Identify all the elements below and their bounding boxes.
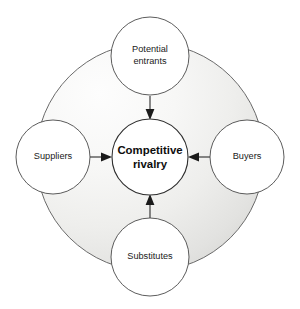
competitive-rivalry-label-line1: Competitive xyxy=(117,144,182,156)
force-node-competitive-rivalry[interactable]: Competitive rivalry xyxy=(112,119,188,195)
force-node-substitutes[interactable]: Substitutes xyxy=(111,218,189,296)
competitive-rivalry-circle[interactable] xyxy=(112,119,188,195)
competitive-rivalry-label-line2: rivalry xyxy=(133,158,168,170)
diagram-canvas: Potential entrants Suppliers Buyers Subs… xyxy=(0,0,300,309)
force-node-potential-entrants[interactable]: Potential entrants xyxy=(111,17,189,95)
five-forces-diagram: Potential entrants Suppliers Buyers Subs… xyxy=(0,0,300,309)
substitutes-label: Substitutes xyxy=(127,251,173,261)
suppliers-label: Suppliers xyxy=(34,151,73,161)
force-node-buyers[interactable]: Buyers xyxy=(210,120,284,194)
potential-entrants-label-line2: entrants xyxy=(133,56,167,66)
buyers-label: Buyers xyxy=(233,151,262,161)
force-node-suppliers[interactable]: Suppliers xyxy=(16,120,90,194)
potential-entrants-label-line1: Potential xyxy=(132,44,168,54)
